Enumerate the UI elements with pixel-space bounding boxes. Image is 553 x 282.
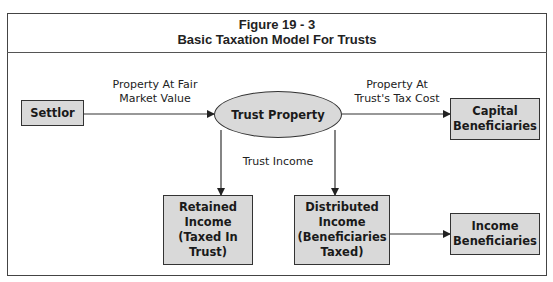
node-settlor: Settlor xyxy=(21,100,84,126)
node-retained-income: Retained Income (Taxed In Trust) xyxy=(163,195,253,265)
edge-label-tax-cost: Property At Trust's Tax Cost xyxy=(342,78,452,106)
node-label-line: Distributed xyxy=(305,200,378,215)
edge-label-line: Market Value xyxy=(100,92,210,106)
node-label: Settlor xyxy=(30,106,75,121)
node-distributed-income: Distributed Income (Beneficiaries Taxed) xyxy=(294,195,390,265)
edge-label-trust-income: Trust Income xyxy=(228,155,328,169)
node-label-line: Capital xyxy=(472,104,518,119)
node-label-line: Income xyxy=(185,215,232,230)
edge-label-line: Trust's Tax Cost xyxy=(342,92,452,106)
node-label-line: Income xyxy=(319,215,366,230)
node-label: Trust Property xyxy=(231,108,324,122)
node-label-line: Trust) xyxy=(189,245,227,260)
node-label-line: Income xyxy=(472,219,519,234)
node-label-line: Taxed) xyxy=(321,245,364,260)
node-capital-beneficiaries: Capital Beneficiaries xyxy=(450,98,540,140)
node-label-line: Retained xyxy=(179,200,237,215)
node-label-line: (Taxed In xyxy=(178,230,237,245)
node-label-line: Beneficiaries xyxy=(453,234,537,249)
edge-label-line: Property At xyxy=(342,78,452,92)
edge-label-fair-market-value: Property At Fair Market Value xyxy=(100,78,210,106)
node-income-beneficiaries: Income Beneficiaries xyxy=(450,213,540,255)
edge-label-line: Property At Fair xyxy=(100,78,210,92)
node-trust-property: Trust Property xyxy=(214,91,342,138)
node-label-line: (Beneficiaries xyxy=(297,230,386,245)
node-label-line: Beneficiaries xyxy=(453,119,537,134)
